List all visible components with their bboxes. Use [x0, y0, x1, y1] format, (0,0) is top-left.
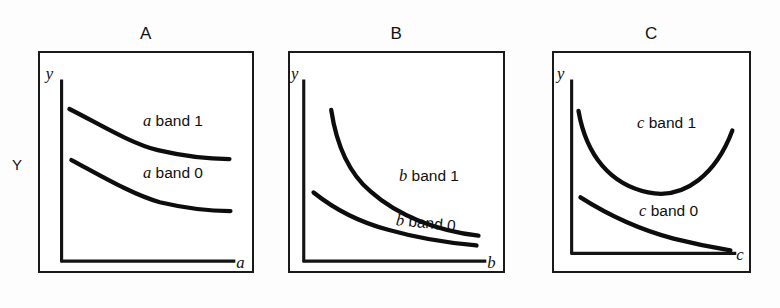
panel-b-x-axis-label: b [487, 253, 495, 272]
panel-a: y a a band 1 a band 0 [38, 51, 254, 273]
panel-b-label-band-1-var: b [399, 166, 407, 185]
panel-a-label-band-1: a band 1 [143, 111, 203, 131]
panel-c-label-band-1: c band 1 [637, 113, 696, 133]
panel-c-x-axis-label: c [736, 245, 744, 264]
panel-a-x-axis-label: a [236, 253, 244, 272]
y-axis-outer-label: Y [12, 156, 22, 173]
panel-a-label-band-1-var: a [143, 111, 151, 130]
panel-a-label-band-0: a band 0 [143, 163, 203, 183]
panel-c: y c c band 1 c band 0 [552, 51, 751, 273]
panel-b: y b b band 1 b band 0 [288, 51, 505, 273]
panel-c-label-band-0-text: band 0 [646, 202, 698, 219]
panel-b-label-band-1-text: band 1 [407, 167, 459, 184]
figure-root: Y A B C y a a band 1 a band 0 [0, 0, 780, 308]
panel-c-y-axis-label: y [555, 64, 565, 83]
panel-b-plot: y b [290, 53, 503, 271]
panel-a-label-band-1-text: band 1 [151, 112, 203, 129]
panel-c-label-band-1-text: band 1 [644, 114, 696, 131]
panel-b-y-axis-label: y [289, 64, 299, 83]
panel-title-b: B [288, 24, 505, 44]
panel-a-label-band-0-text: band 0 [151, 164, 203, 181]
panel-title-a: A [38, 24, 254, 44]
panel-a-y-axis-label: y [44, 64, 54, 83]
panel-c-plot: y c [554, 53, 749, 271]
panel-title-c: C [552, 24, 751, 44]
panel-c-label-band-0: c band 0 [639, 201, 698, 221]
panel-b-label-band-1: b band 1 [399, 166, 459, 186]
panel-b-label-band-0-text: band 0 [403, 212, 456, 234]
panel-a-label-band-0-var: a [143, 163, 151, 182]
panel-a-plot: y a [40, 53, 252, 271]
